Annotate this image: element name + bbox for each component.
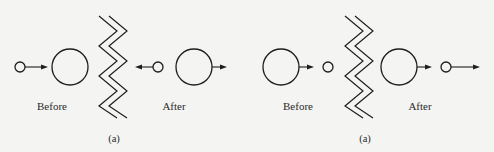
large-ball-icon [381, 49, 417, 85]
arrow-left-icon [135, 65, 142, 70]
wall-zigzag-line-back [109, 16, 127, 118]
before-label-left: Before [37, 100, 67, 112]
collision-diagram: Before After (a) Before After (a) [0, 0, 494, 152]
wall-zigzag-line-front [345, 16, 363, 118]
arrow-right-icon [41, 65, 48, 70]
arrow-right-icon [220, 65, 227, 70]
wall-zigzag-right [345, 16, 373, 118]
large-ball-icon [52, 49, 88, 85]
arrows-right [299, 65, 480, 70]
panel-right: Before After (a) [263, 16, 480, 145]
panel-left: Before After (a) [15, 16, 227, 145]
small-ball-icon [153, 62, 163, 72]
small-ball-icon [323, 62, 333, 72]
small-ball-icon [441, 62, 451, 72]
wall-zigzag-left [99, 16, 127, 118]
large-ball-icon [263, 49, 299, 85]
arrow-right-icon [473, 65, 480, 70]
before-label-right: Before [283, 100, 313, 112]
large-ball-icon [176, 49, 212, 85]
wall-zigzag-line-back [355, 16, 373, 118]
arrow-right-icon [425, 65, 432, 70]
caption-right: (a) [359, 133, 371, 145]
after-label-left: After [162, 100, 186, 112]
arrows-left [25, 65, 227, 70]
arrow-right-icon [307, 65, 314, 70]
after-label-right: After [408, 100, 432, 112]
caption-left: (a) [108, 133, 120, 145]
small-ball-icon [15, 62, 25, 72]
wall-zigzag-line-front [99, 16, 117, 118]
